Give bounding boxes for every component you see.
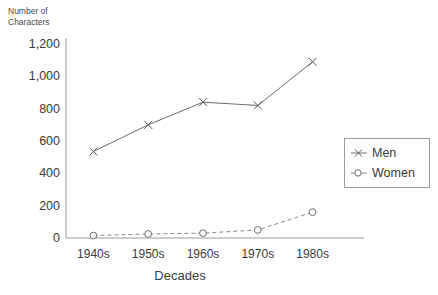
open-circle-marker-icon (200, 230, 207, 237)
x-star-marker-icon (309, 58, 317, 66)
legend-item-women: Women (351, 163, 415, 183)
x-star-marker-icon (351, 147, 367, 159)
open-circle-marker-icon (254, 227, 261, 234)
x-star-marker-icon (144, 121, 152, 129)
open-circle-marker-icon (309, 209, 316, 216)
open-circle-marker-icon (351, 167, 367, 179)
legend-label-women: Women (372, 166, 415, 180)
series-men (89, 58, 316, 156)
legend-item-men: Men (351, 143, 396, 163)
x-axis-title: Decades (0, 268, 360, 283)
series-line (93, 62, 312, 152)
series-women (90, 209, 316, 239)
x-star-marker-icon (89, 148, 97, 156)
open-circle-marker-icon (145, 231, 152, 238)
line-chart: Number of Characters 1,200 1,000 800 600… (0, 0, 438, 295)
legend-label-men: Men (372, 146, 396, 160)
open-circle-marker-icon (90, 232, 97, 239)
chart-legend: Men Women (344, 138, 430, 188)
